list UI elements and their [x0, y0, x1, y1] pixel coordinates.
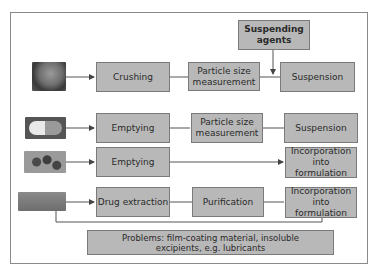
capsule-image	[25, 117, 66, 139]
suspending-agents-box: Suspending agents	[238, 20, 310, 50]
drug-extraction-box: Drug extraction	[96, 187, 170, 217]
incorporation-box-2: Incorporation into formulation	[285, 187, 357, 218]
particle-size-box-1: Particle size measurement	[188, 62, 260, 91]
particle-size-box-2: Particle size measurement	[191, 113, 263, 143]
emptying-box-2: Emptying	[96, 147, 170, 177]
suspension-box-2: Suspension	[284, 113, 358, 143]
emptying-box-1: Emptying	[96, 113, 170, 143]
problems-box: Problems: film-coating material, insolub…	[87, 230, 334, 255]
tablet-image	[32, 62, 66, 91]
suspension-box-1: Suspension	[280, 62, 355, 92]
purification-box: Purification	[192, 187, 264, 217]
tablet-strip-image	[18, 192, 66, 211]
crushing-box: Crushing	[96, 62, 170, 92]
incorporation-box-1: Incorporation into formulation	[285, 147, 357, 178]
soft-capsules-image	[24, 151, 66, 173]
